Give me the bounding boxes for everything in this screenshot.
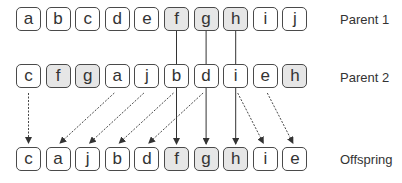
parent-1-gene-j: j (282, 7, 307, 31)
offspring-gene-g: g (194, 147, 219, 171)
parent-2-gene-g: g (75, 64, 100, 88)
parent-1-label: Parent 1 (340, 12, 389, 27)
offspring-gene-c: c (16, 147, 41, 171)
parent-1-gene-f: f (164, 7, 189, 31)
dashed-transfer-arrow (238, 93, 264, 143)
parent-2-gene-j: j (134, 64, 159, 88)
parent-1-gene-d: d (105, 7, 130, 31)
offspring-gene-e: e (282, 147, 307, 171)
offspring-gene-d: d (134, 147, 159, 171)
dashed-transfer-arrow (267, 93, 293, 143)
parent-2-gene-c: c (16, 64, 41, 88)
parent-1-gene-e: e (134, 7, 159, 31)
parent-1-gene-g: g (194, 7, 219, 31)
parent-1-gene-b: b (46, 7, 71, 31)
parent-1-gene-c: c (75, 7, 100, 31)
dashed-transfer-arrow (90, 93, 144, 143)
parent-1-gene-i: i (253, 7, 278, 31)
parent-2-gene-a: a (105, 64, 130, 88)
parent-2-gene-d: d (194, 64, 219, 88)
dashed-transfer-arrow (119, 93, 173, 143)
offspring-gene-j: j (75, 147, 100, 171)
offspring-gene-i: i (253, 147, 278, 171)
parent-1-gene-h: h (223, 7, 248, 31)
crossover-diagram: abcdefghij cfgajbdieh cajbdfghie Parent … (0, 0, 402, 183)
dashed-arrows (29, 93, 293, 143)
dashed-transfer-arrow (60, 93, 114, 143)
offspring-gene-b: b (105, 147, 130, 171)
parent-2-gene-i: i (223, 64, 248, 88)
parent-1-gene-a: a (16, 7, 41, 31)
offspring-gene-a: a (46, 147, 71, 171)
offspring-label: Offspring (340, 152, 393, 167)
parent-2-gene-f: f (46, 64, 71, 88)
parent-2-gene-e: e (253, 64, 278, 88)
parent-2-gene-h: h (282, 64, 307, 88)
parent-2-label: Parent 2 (340, 70, 389, 85)
parent-2-gene-b: b (164, 64, 189, 88)
offspring-gene-f: f (164, 147, 189, 171)
offspring-gene-h: h (223, 147, 248, 171)
